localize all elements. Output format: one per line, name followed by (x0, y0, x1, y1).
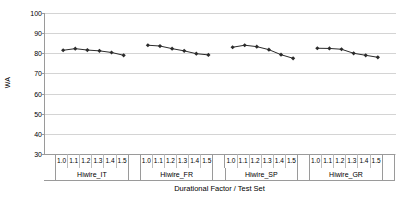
x-axis-tick-label: 1.5 (201, 154, 213, 168)
data-point-marker (206, 53, 210, 57)
data-point-marker (315, 46, 319, 50)
x-axis-spacer (213, 154, 225, 168)
series-line (63, 49, 124, 56)
x-axis-tick-label: 1.2 (165, 154, 177, 168)
x-axis-spacer (129, 154, 141, 168)
series-line (233, 45, 294, 58)
x-axis-tick-label: 1.1 (153, 154, 165, 168)
x-axis-group-row: Hiwire_ITHiwire_FRHiwire_SPHiwire_GR (44, 168, 395, 181)
data-point-marker (194, 52, 198, 56)
data-point-marker (109, 50, 113, 54)
x-axis-tick-label: 1.4 (274, 154, 286, 168)
x-axis-tick-label: 1.0 (56, 154, 68, 168)
data-point-marker (158, 44, 162, 48)
y-axis-tick-label: 30 (20, 151, 42, 158)
data-point-marker (255, 45, 259, 49)
y-axis-tick-label: 70 (20, 70, 42, 77)
data-point-marker (61, 48, 65, 52)
data-point-marker (231, 45, 235, 49)
x-axis-group-label: Hiwire_SP (226, 168, 299, 180)
x-axis-tick-label: 1.5 (286, 154, 298, 168)
y-axis-tick-label: 50 (20, 110, 42, 117)
series-line (148, 45, 209, 55)
data-point-marker (243, 43, 247, 47)
x-axis-tick-label: 1.3 (262, 154, 274, 168)
x-axis-tick-label: 1.3 (92, 154, 104, 168)
x-axis-group-label: Hiwire_FR (141, 168, 214, 180)
y-axis-tick-label: 100 (20, 10, 42, 17)
x-axis-group-spacer (383, 168, 395, 180)
x-axis-tick-label: 1.0 (225, 154, 237, 168)
y-axis-title: WA (0, 0, 16, 165)
y-axis-title-label: WA (4, 77, 11, 88)
x-axis-group-spacer (298, 168, 310, 180)
x-axis-spacer (298, 154, 310, 168)
x-axis-tick-label: 1.2 (250, 154, 262, 168)
y-axis-tick-label: 60 (20, 90, 42, 97)
data-point-marker (170, 47, 174, 51)
x-axis-tick-label: 1.3 (177, 154, 189, 168)
y-axis-tick-label: 40 (20, 130, 42, 137)
x-axis-group-spacer (213, 168, 225, 180)
data-point-marker (352, 51, 356, 55)
x-axis-group-spacer (129, 168, 141, 180)
chart-container: WA 10090807060504030 1.01.11.21.31.41.51… (0, 0, 407, 211)
x-axis-group-label: Hiwire_GR (310, 168, 383, 180)
data-point-marker (97, 49, 101, 53)
data-point-marker (182, 49, 186, 53)
y-axis-tick-label: 80 (20, 50, 42, 57)
x-axis-spacer (383, 154, 395, 168)
data-point-marker (376, 55, 380, 59)
y-axis-tick-label: 90 (20, 30, 42, 37)
x-axis-group-spacer (44, 168, 56, 180)
x-axis-tick-label: 1.2 (80, 154, 92, 168)
data-point-marker (146, 43, 150, 47)
x-axis-tick-label: 1.0 (141, 154, 153, 168)
series-line (317, 48, 378, 57)
data-point-marker (291, 56, 295, 60)
x-axis-tick-label: 1.1 (68, 154, 80, 168)
series-layer (45, 13, 396, 154)
data-point-marker (267, 48, 271, 52)
x-axis-tick-label: 1.3 (346, 154, 358, 168)
data-point-marker (339, 47, 343, 51)
x-axis-tick-label: 1.1 (238, 154, 250, 168)
x-axis-group-label: Hiwire_IT (56, 168, 129, 180)
data-point-marker (122, 53, 126, 57)
x-axis-tick-label: 1.5 (371, 154, 383, 168)
x-axis-tick-label: 1.5 (117, 154, 129, 168)
data-point-marker (279, 53, 283, 57)
data-point-marker (327, 46, 331, 50)
x-axis-spacer (44, 154, 56, 168)
data-point-marker (73, 47, 77, 51)
y-axis-tick-labels: 10090807060504030 (16, 0, 42, 165)
x-axis-tick-label: 1.4 (104, 154, 116, 168)
x-axis-tick-label: 1.4 (358, 154, 370, 168)
x-axis-title: Durational Factor / Test Set (44, 184, 395, 193)
x-axis-tick-row: 1.01.11.21.31.41.51.01.11.21.31.41.51.01… (44, 154, 395, 168)
plot-area (44, 13, 396, 155)
x-axis-tick-label: 1.4 (189, 154, 201, 168)
data-point-marker (85, 48, 89, 52)
x-axis-tick-label: 1.0 (310, 154, 322, 168)
x-axis-tick-label: 1.1 (322, 154, 334, 168)
data-point-marker (364, 53, 368, 57)
x-axis-tick-label: 1.2 (334, 154, 346, 168)
